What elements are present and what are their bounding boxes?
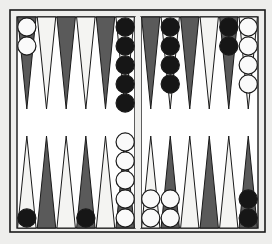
white-checker[interactable]	[116, 133, 134, 151]
white-checker[interactable]	[161, 190, 179, 208]
white-checker[interactable]	[116, 171, 134, 189]
center-bar[interactable]	[135, 17, 141, 228]
white-checker[interactable]	[239, 18, 257, 36]
black-checker[interactable]	[77, 209, 95, 227]
white-checker[interactable]	[239, 75, 257, 93]
black-checker[interactable]	[116, 37, 134, 55]
black-checker[interactable]	[161, 37, 179, 55]
white-checker[interactable]	[116, 190, 134, 208]
black-checker[interactable]	[116, 94, 134, 112]
backgammon-board	[0, 0, 272, 244]
white-checker[interactable]	[239, 37, 257, 55]
white-checker[interactable]	[142, 190, 160, 208]
black-checker[interactable]	[161, 75, 179, 93]
black-checker[interactable]	[220, 18, 238, 36]
black-checker[interactable]	[220, 37, 238, 55]
white-checker[interactable]	[239, 56, 257, 74]
black-checker[interactable]	[18, 209, 36, 227]
black-checker[interactable]	[116, 75, 134, 93]
black-checker[interactable]	[161, 56, 179, 74]
white-checker[interactable]	[161, 209, 179, 227]
white-checker[interactable]	[142, 209, 160, 227]
black-checker[interactable]	[239, 209, 257, 227]
white-checker[interactable]	[18, 37, 36, 55]
white-checker[interactable]	[116, 209, 134, 227]
white-checker[interactable]	[18, 18, 36, 36]
black-checker[interactable]	[239, 190, 257, 208]
white-checker[interactable]	[116, 152, 134, 170]
black-checker[interactable]	[116, 18, 134, 36]
black-checker[interactable]	[161, 18, 179, 36]
black-checker[interactable]	[116, 56, 134, 74]
